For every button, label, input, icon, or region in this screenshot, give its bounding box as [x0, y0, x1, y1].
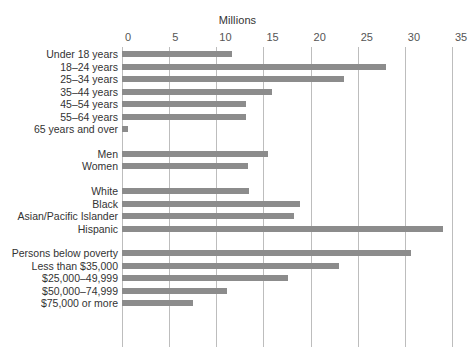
category-label: $50,000–74,999 — [0, 286, 118, 297]
x-tick-label: 15 — [266, 31, 278, 43]
category-label: 18–24 years — [0, 62, 118, 73]
category-label: Asian/Pacific Islander — [0, 211, 118, 222]
category-labels-column: Under 18 years18–24 years25–34 years35–4… — [0, 47, 118, 347]
bar — [122, 201, 300, 207]
category-label: 45–54 years — [0, 99, 118, 110]
category-label: Men — [0, 149, 118, 160]
category-label: Less than $35,000 — [0, 261, 118, 272]
gridline-25 — [358, 47, 359, 347]
x-tick-label: 5 — [172, 31, 178, 43]
category-label: 25–34 years — [0, 74, 118, 85]
bar — [122, 250, 411, 256]
bar — [122, 151, 268, 157]
bar — [122, 226, 443, 232]
bar — [122, 89, 272, 95]
bar — [122, 300, 193, 306]
bar — [122, 263, 339, 269]
category-label: Women — [0, 161, 118, 172]
bar — [122, 64, 386, 70]
category-label: $75,000 or more — [0, 298, 118, 309]
bar-chart: Millions 05101520253035 Under 18 years18… — [0, 0, 475, 356]
category-label: Black — [0, 199, 118, 210]
x-tick-label: 35 — [455, 31, 467, 43]
bar — [122, 76, 344, 82]
bar — [122, 163, 248, 169]
x-tick-label: 25 — [361, 31, 373, 43]
gridline-30 — [405, 47, 406, 347]
bar — [122, 51, 232, 57]
gridline-20 — [311, 47, 312, 347]
category-label: Persons below poverty — [0, 248, 118, 259]
axis-title: Millions — [0, 14, 475, 26]
bar — [122, 288, 227, 294]
gridline-35 — [452, 47, 453, 347]
plot-area — [122, 47, 452, 347]
bar — [122, 114, 246, 120]
x-tick-label: 10 — [219, 31, 231, 43]
category-label: 55–64 years — [0, 112, 118, 123]
category-label: 35–44 years — [0, 87, 118, 98]
category-label: Under 18 years — [0, 49, 118, 60]
x-tick-label: 0 — [125, 31, 131, 43]
bar — [122, 213, 294, 219]
category-label: $25,000–49,999 — [0, 273, 118, 284]
category-label: Hispanic — [0, 224, 118, 235]
category-label: White — [0, 186, 118, 197]
bar — [122, 188, 249, 194]
bar — [122, 101, 246, 107]
bar — [122, 275, 288, 281]
category-label: 65 years and over — [0, 124, 118, 135]
x-tick-label: 20 — [314, 31, 326, 43]
bar — [122, 126, 128, 132]
x-tick-label: 30 — [408, 31, 420, 43]
